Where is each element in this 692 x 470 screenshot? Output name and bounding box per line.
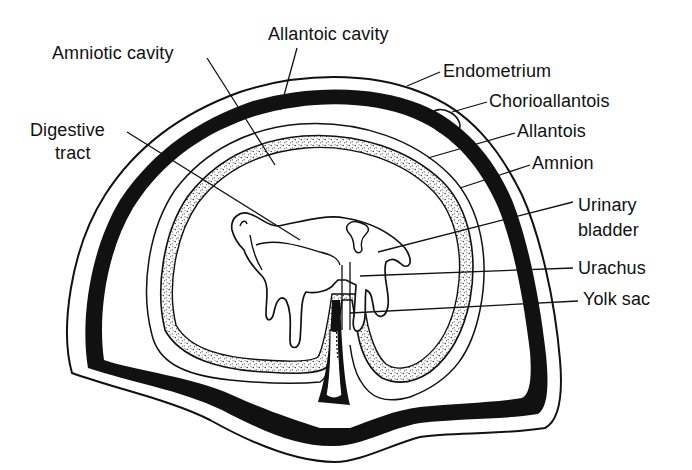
leader-endometrium xyxy=(407,72,440,86)
label-urinary-bladder-line1: Urinary xyxy=(578,195,637,216)
label-digestive-tract-line2: tract xyxy=(55,143,91,164)
label-endometrium: Endometrium xyxy=(443,61,551,82)
label-allantoic-cavity: Allantoic cavity xyxy=(268,24,389,45)
label-allantois: Allantois xyxy=(517,121,586,142)
label-amnion: Amnion xyxy=(532,153,594,174)
label-urachus: Urachus xyxy=(578,258,646,279)
label-chorioallantois: Chorioallantois xyxy=(489,91,610,112)
label-amniotic-cavity: Amniotic cavity xyxy=(52,43,174,64)
label-yolk-sac: Yolk sac xyxy=(583,289,650,310)
label-urinary-bladder-line2: bladder xyxy=(578,220,639,241)
label-digestive-tract-line1: Digestive xyxy=(30,120,105,141)
leader-chorioallantois xyxy=(452,102,487,112)
